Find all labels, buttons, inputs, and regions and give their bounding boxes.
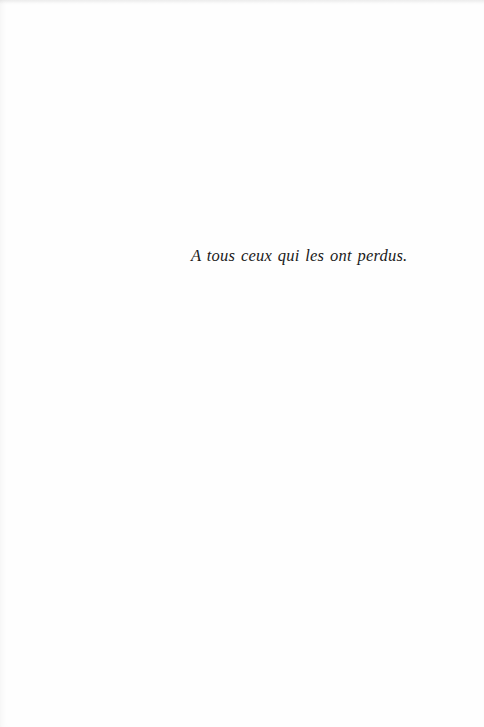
page-edge-shadow [0,0,484,4]
dedication-text: A tous ceux qui les ont perdus. [191,246,406,266]
book-page: A tous ceux qui les ont perdus. [0,0,484,727]
